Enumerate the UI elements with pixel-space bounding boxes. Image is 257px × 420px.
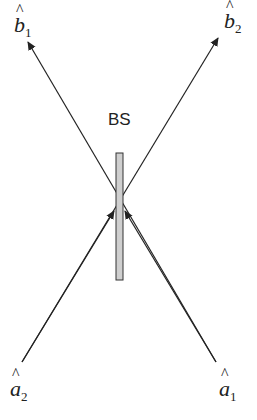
beam-splitter (116, 153, 123, 280)
output-label-b1: b1 (14, 14, 32, 39)
input-label-a2: a2 (10, 378, 28, 403)
beam-splitter-label: BS (108, 110, 131, 130)
input-arrow-a1 (125, 211, 216, 362)
beam-splitter-diagram (0, 0, 257, 420)
input-arrow-a2 (22, 211, 114, 362)
output-label-b2: b2 (224, 10, 242, 35)
input-label-a1: a1 (219, 378, 237, 403)
